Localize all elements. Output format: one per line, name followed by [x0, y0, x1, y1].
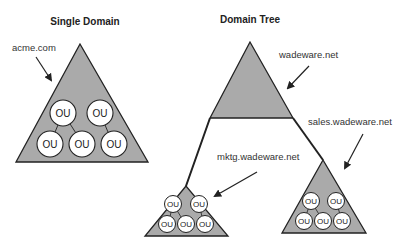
sales-ou-2: OU	[328, 193, 345, 210]
sales-ou-4: OU	[315, 213, 332, 230]
svg-text:OU: OU	[199, 220, 211, 229]
sales-arrow-icon	[345, 134, 363, 168]
svg-text:OU: OU	[180, 220, 192, 229]
acme-arrow-icon	[36, 57, 51, 80]
wadeware-arrow-icon	[288, 66, 309, 88]
acme-ou-1: OU	[50, 100, 76, 126]
acme-ou-5: OU	[101, 131, 127, 157]
svg-text:OU: OU	[161, 220, 173, 229]
svg-text:OU: OU	[75, 139, 90, 150]
acme-domain-label: acme.com	[12, 42, 56, 53]
branch-line-mktg	[186, 118, 210, 186]
sales-ou-1: OU	[303, 193, 320, 210]
acme-ou-4: OU	[69, 131, 95, 157]
mktg-ou-2: OU	[191, 196, 208, 213]
svg-text:OU: OU	[43, 139, 58, 150]
mktg-ou-4: OU	[178, 216, 195, 233]
sales-label: sales.wadeware.net	[308, 116, 392, 127]
domain-tree-group: Domain Tree wadeware.net sales.wadeware.…	[145, 14, 392, 236]
mktg-ou-5: OU	[197, 216, 214, 233]
acme-ou-2: OU	[87, 100, 113, 126]
svg-text:OU: OU	[167, 200, 179, 209]
mktg-label: mktg.wadeware.net	[217, 151, 300, 162]
svg-text:OU: OU	[305, 197, 317, 206]
sales-ou-3: OU	[296, 213, 313, 230]
svg-text:OU: OU	[298, 217, 310, 226]
mktg-arrow-icon	[215, 172, 257, 196]
acme-ou-3: OU	[37, 131, 63, 157]
svg-text:OU: OU	[193, 200, 205, 209]
wadeware-label: wadeware.net	[278, 49, 339, 60]
single-domain-group: Single Domain acme.com OU OU OU OU OU	[12, 16, 148, 162]
domain-tree-title: Domain Tree	[220, 14, 280, 25]
mktg-ou-1: OU	[165, 196, 182, 213]
svg-text:OU: OU	[107, 139, 122, 150]
svg-text:OU: OU	[93, 108, 108, 119]
single-domain-title: Single Domain	[50, 16, 119, 27]
sales-ou-5: OU	[334, 213, 351, 230]
svg-text:OU: OU	[336, 217, 348, 226]
svg-text:OU: OU	[317, 217, 329, 226]
svg-text:OU: OU	[330, 197, 342, 206]
svg-text:OU: OU	[56, 108, 71, 119]
mktg-ou-3: OU	[159, 216, 176, 233]
